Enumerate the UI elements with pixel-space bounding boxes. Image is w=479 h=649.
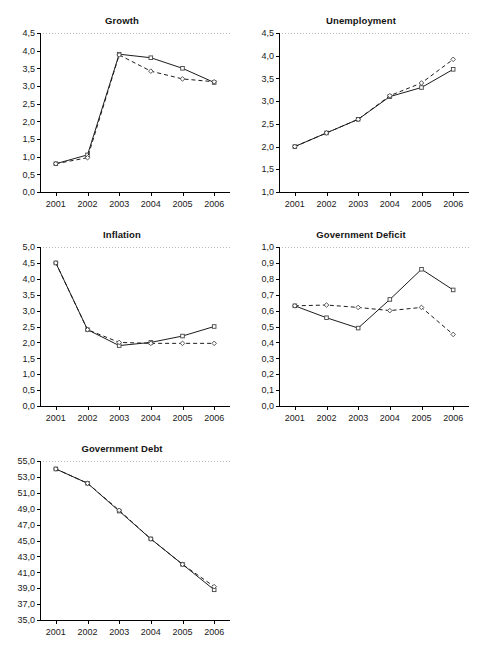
x-tick-label: 2001 (46, 199, 66, 209)
y-axis-ticks-unemployment: 1,01,52,02,53,03,54,04,5 (261, 28, 279, 197)
y-tick-label: 0,4 (261, 338, 274, 348)
y-tick-label: 39,0 (17, 583, 35, 593)
y-tick-label: 1,5 (22, 134, 35, 144)
series-dashed-government-debt (54, 467, 217, 589)
x-axis-ticks-growth: 200120022003200420052006 (46, 193, 224, 210)
series-solid-government-debt (54, 467, 216, 591)
x-tick-label: 2005 (172, 199, 192, 209)
y-tick-label: 51,0 (17, 488, 35, 498)
y-tick-label: 1,0 (261, 187, 274, 197)
y-tick-label: 0,9 (261, 258, 274, 268)
y-tick-label: 2,0 (22, 117, 35, 127)
y-tick-label: 2,5 (261, 119, 274, 129)
y-axis-ticks-government-debt: 35,037,039,041,043,045,047,049,051,053,0… (17, 456, 40, 625)
y-tick-label: 1,5 (22, 354, 35, 364)
chart-title-inflation: Inflation (6, 228, 238, 241)
y-tick-label: 3,0 (22, 81, 35, 91)
x-tick-label: 2001 (285, 413, 305, 423)
chart-svg-unemployment: 1,01,52,02,53,03,54,04,52001200220032004… (245, 27, 477, 218)
y-tick-label: 1,5 (261, 164, 274, 174)
x-tick-label: 2005 (411, 413, 431, 423)
y-tick-label: 0,5 (261, 322, 274, 332)
y-tick-label: 3,0 (261, 96, 274, 106)
y-tick-label: 47,0 (17, 520, 35, 530)
x-tick-label: 2004 (380, 199, 400, 209)
chart-axes (41, 33, 231, 193)
y-tick-label: 0,8 (261, 274, 274, 284)
x-tick-label: 2006 (204, 627, 224, 637)
series-dashed-unemployment (293, 57, 456, 149)
y-tick-label: 3,5 (261, 74, 274, 84)
chart-panel-government-debt: Government Debt35,037,039,041,043,045,04… (6, 442, 238, 646)
x-tick-label: 2003 (348, 199, 368, 209)
chart-svg-government-deficit: 0,00,10,20,30,40,50,60,70,80,91,02001200… (245, 241, 477, 432)
chart-title-growth: Growth (6, 14, 238, 27)
chart-title-unemployment: Unemployment (245, 14, 477, 27)
y-tick-label: 4,0 (22, 46, 35, 56)
y-tick-label: 0,3 (261, 354, 274, 364)
x-axis-ticks-government-debt: 200120022003200420052006 (46, 621, 224, 638)
series-solid-inflation (54, 261, 216, 347)
y-tick-label: 5,0 (22, 242, 35, 252)
y-tick-label: 0,0 (22, 401, 35, 411)
y-tick-label: 49,0 (17, 504, 35, 514)
y-tick-label: 53,0 (17, 472, 35, 482)
series-solid-government-deficit (293, 267, 455, 329)
x-tick-label: 2002 (77, 413, 97, 423)
y-tick-label: 45,0 (17, 536, 35, 546)
y-tick-label: 0,0 (261, 401, 274, 411)
chart-svg-inflation: 0,00,51,01,52,02,53,03,54,04,55,02001200… (6, 241, 238, 432)
x-axis-ticks-unemployment: 200120022003200420052006 (285, 193, 463, 210)
x-tick-label: 2006 (443, 413, 463, 423)
chart-axes (280, 247, 470, 407)
x-tick-label: 2004 (380, 413, 400, 423)
series-solid-growth (54, 52, 216, 165)
x-tick-label: 2002 (316, 199, 336, 209)
x-tick-label: 2001 (46, 627, 66, 637)
chart-panel-inflation: Inflation0,00,51,01,52,02,53,03,54,04,55… (6, 228, 238, 432)
chart-axes (41, 247, 231, 407)
chart-axes (41, 461, 231, 621)
chart-panel-growth: Growth0,00,51,01,52,02,53,03,54,04,52001… (6, 14, 238, 218)
y-axis-ticks-government-deficit: 0,00,10,20,30,40,50,60,70,80,91,0 (261, 242, 279, 411)
y-tick-label: 0,5 (22, 170, 35, 180)
y-axis-ticks-growth: 0,00,51,01,52,02,53,03,54,04,5 (22, 28, 40, 197)
y-tick-label: 41,0 (17, 568, 35, 578)
x-tick-label: 2004 (141, 199, 161, 209)
y-tick-label: 0,6 (261, 306, 274, 316)
chart-panel-unemployment: Unemployment1,01,52,02,53,03,54,04,52001… (245, 14, 477, 218)
x-tick-label: 2003 (109, 413, 129, 423)
y-tick-label: 0,7 (261, 290, 274, 300)
y-tick-label: 4,5 (22, 258, 35, 268)
x-tick-label: 2004 (141, 627, 161, 637)
x-tick-label: 2002 (77, 199, 97, 209)
x-axis-ticks-government-deficit: 200120022003200420052006 (285, 407, 463, 424)
y-tick-label: 4,5 (261, 28, 274, 38)
y-tick-label: 3,0 (22, 306, 35, 316)
y-tick-label: 0,0 (22, 187, 35, 197)
y-axis-ticks-inflation: 0,00,51,01,52,02,53,03,54,04,55,0 (22, 242, 40, 411)
x-tick-label: 2002 (77, 627, 97, 637)
y-tick-label: 1,0 (261, 242, 274, 252)
y-tick-label: 4,0 (22, 274, 35, 284)
x-tick-label: 2005 (411, 199, 431, 209)
x-tick-label: 2005 (172, 413, 192, 423)
chart-title-government-deficit: Government Deficit (245, 228, 477, 241)
x-tick-label: 2006 (204, 413, 224, 423)
x-tick-label: 2006 (204, 199, 224, 209)
y-tick-label: 4,0 (261, 51, 274, 61)
y-tick-label: 37,0 (17, 599, 35, 609)
x-tick-label: 2005 (172, 627, 192, 637)
x-tick-label: 2002 (316, 413, 336, 423)
y-tick-label: 1,0 (22, 152, 35, 162)
y-tick-label: 43,0 (17, 552, 35, 562)
series-solid-unemployment (293, 68, 455, 149)
x-tick-label: 2003 (109, 627, 129, 637)
series-dashed-growth (54, 53, 217, 166)
chart-axes (280, 33, 470, 193)
y-tick-label: 4,5 (22, 28, 35, 38)
chart-panel-government-deficit: Government Deficit0,00,10,20,30,40,50,60… (245, 228, 477, 432)
y-tick-label: 2,0 (22, 338, 35, 348)
x-tick-label: 2004 (141, 413, 161, 423)
y-tick-label: 2,0 (261, 142, 274, 152)
